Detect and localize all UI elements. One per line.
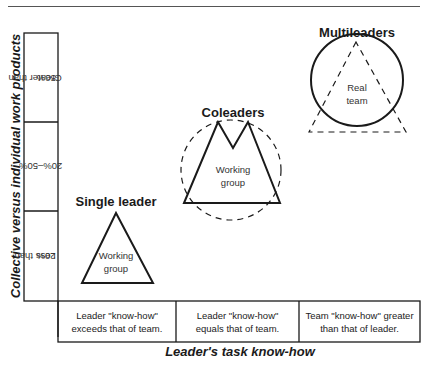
y-category-high-line2: 50% xyxy=(20,72,73,83)
y-category-low-line2: 20% xyxy=(26,251,67,262)
single-leader-inner-line2: group xyxy=(86,262,146,275)
x-category-3-line2: than that of leader. xyxy=(305,322,413,335)
x-category-1-line1: Leader "know-how" xyxy=(72,309,163,322)
multileaders-title: Multileaders xyxy=(307,25,407,40)
x-category-3-line1: Team "know-how" greater xyxy=(305,309,413,322)
multileaders-inner-label: Real team xyxy=(327,81,387,107)
x-category-leader-equals: Leader "know-how"equals that of team. xyxy=(176,301,299,342)
x-category-team-greater: Team "know-how" greaterthan that of lead… xyxy=(299,301,420,342)
single-leader-inner-label: Working group xyxy=(86,249,146,275)
multileaders-inner-line2: team xyxy=(327,94,387,107)
single-leader-title: Single leader xyxy=(66,194,166,209)
single-leader-inner-line1: Working xyxy=(86,249,146,262)
coleaders-title: Coleaders xyxy=(183,105,283,120)
coleaders-inner-line1: Working xyxy=(203,163,263,176)
y-category-low: Less than20% xyxy=(24,211,58,301)
x-category-2-line2: equals that of team. xyxy=(196,322,279,335)
coleaders-inner-line2: group xyxy=(203,176,263,189)
multileaders-inner-line1: Real xyxy=(327,81,387,94)
x-category-leader-exceeds: Leader "know-how"exceeds that of team. xyxy=(58,301,176,342)
x-category-1-line2: exceeds that of team. xyxy=(72,322,163,335)
multileaders-circle xyxy=(311,34,403,126)
y-category-mid: 20%–50% xyxy=(24,122,58,211)
y-category-mid-line1: 20%–50% xyxy=(19,161,62,172)
y-category-high: Greater than50% xyxy=(24,33,58,122)
x-axis-title: Leader's task know-how xyxy=(150,344,330,359)
coleaders-inner-label: Working group xyxy=(203,163,263,189)
x-category-2-line1: Leader "know-how" xyxy=(196,309,279,322)
